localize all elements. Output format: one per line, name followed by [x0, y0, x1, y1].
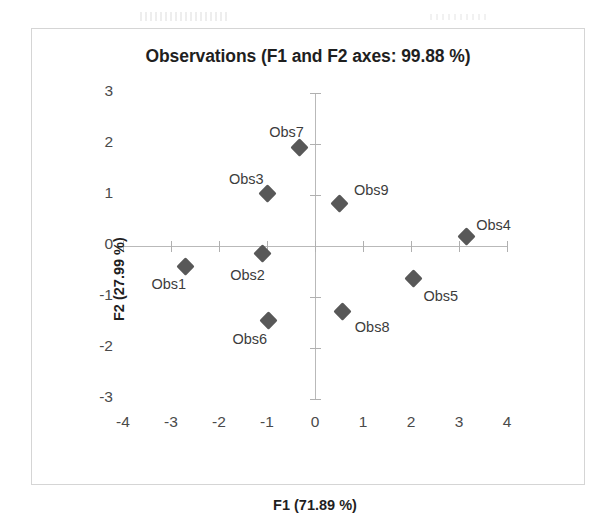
scan-artifact-top-left — [140, 12, 230, 21]
x-tick-mark — [459, 241, 460, 252]
x-tick-label: 4 — [487, 413, 527, 431]
y-tick-mark — [310, 93, 321, 94]
data-point-label-obs7: Obs7 — [269, 124, 304, 140]
x-tick-label: -1 — [247, 413, 287, 431]
data-point-obs1[interactable] — [176, 257, 194, 275]
data-point-label-obs5: Obs5 — [423, 288, 458, 304]
data-point-obs8[interactable] — [334, 302, 352, 320]
x-tick-mark — [411, 241, 412, 252]
data-point-label-obs4: Obs4 — [476, 217, 511, 233]
x-tick-mark — [507, 241, 508, 252]
x-tick-label: -2 — [199, 413, 239, 431]
x-tick-mark — [363, 241, 364, 252]
data-point-obs5[interactable] — [404, 269, 422, 287]
y-tick-mark — [310, 195, 321, 196]
data-point-label-obs2: Obs2 — [230, 267, 265, 283]
y-axis-title: F2 (27.99 %) — [111, 237, 127, 321]
x-tick-label: 0 — [295, 413, 335, 431]
y-tick-label: -3 — [77, 388, 113, 406]
y-tick-label: 2 — [77, 133, 113, 151]
chart-title: Observations (F1 and F2 axes: 99.88 %) — [32, 46, 584, 67]
y-tick-mark — [310, 399, 321, 400]
data-point-label-obs6: Obs6 — [232, 331, 267, 347]
chart-frame: Observations (F1 and F2 axes: 99.88 %) -… — [31, 28, 585, 485]
data-point-label-obs1: Obs1 — [151, 276, 186, 292]
x-tick-mark — [219, 241, 220, 252]
x-tick-mark — [315, 241, 316, 252]
data-point-obs9[interactable] — [331, 194, 349, 212]
y-tick-label: -2 — [77, 337, 113, 355]
plot-area: -4-3-2-101234 3210-1-2-3 Obs1Obs2Obs3Obs… — [123, 93, 507, 399]
y-tick-mark — [310, 144, 321, 145]
x-tick-label: 1 — [343, 413, 383, 431]
x-tick-label: 2 — [391, 413, 431, 431]
y-tick-label: 3 — [77, 82, 113, 100]
y-tick-label: -1 — [77, 286, 113, 304]
y-tick-label: 1 — [77, 184, 113, 202]
y-tick-label: 0 — [77, 235, 113, 253]
y-tick-mark — [310, 348, 321, 349]
x-tick-label: 3 — [439, 413, 479, 431]
x-tick-label: -3 — [151, 413, 191, 431]
data-point-obs6[interactable] — [259, 312, 277, 330]
y-tick-mark — [310, 297, 321, 298]
x-axis-title: F1 (71.89 %) — [123, 497, 507, 513]
data-point-label-obs9: Obs9 — [354, 182, 389, 198]
x-tick-label: -4 — [103, 413, 143, 431]
data-point-obs7[interactable] — [290, 138, 308, 156]
scan-artifact-top-right — [430, 14, 490, 20]
x-tick-mark — [171, 241, 172, 252]
data-point-label-obs3: Obs3 — [229, 171, 264, 187]
data-point-label-obs8: Obs8 — [355, 319, 390, 335]
